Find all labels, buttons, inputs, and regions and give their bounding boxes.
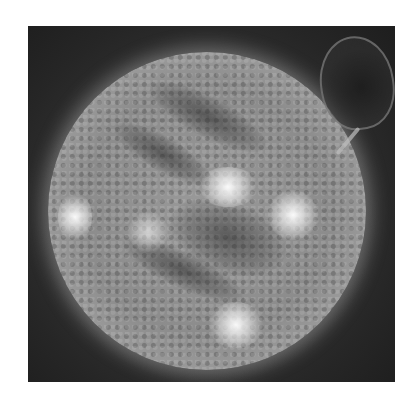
sun-photo	[28, 26, 395, 382]
active-region	[198, 167, 258, 207]
active-region	[208, 302, 264, 348]
active-region	[268, 190, 318, 240]
sun-disc	[48, 52, 366, 370]
active-region	[58, 192, 92, 242]
active-region	[128, 212, 168, 252]
